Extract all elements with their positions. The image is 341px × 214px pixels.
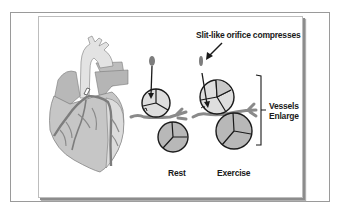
label-vessels: Vessels — [269, 101, 299, 111]
label-enlarge: Enlarge — [269, 111, 299, 121]
caption-arrow — [209, 43, 222, 56]
label-exercise: Exercise — [217, 168, 250, 178]
heart-illustration — [50, 36, 129, 172]
exercise-group — [193, 43, 256, 149]
rest-vessel-top — [142, 89, 170, 117]
caption-slit-like-orifice: Slit-like orifice compresses — [196, 30, 300, 40]
rest-vessel-bottom — [158, 122, 188, 152]
rest-orifice-oval — [149, 56, 155, 66]
label-rest: Rest — [168, 168, 186, 178]
rest-group — [131, 56, 188, 152]
exercise-orifice-oval — [199, 56, 203, 66]
label-vessels-enlarge: Vessels Enlarge — [269, 101, 299, 121]
exercise-vessel-bottom — [216, 113, 252, 149]
